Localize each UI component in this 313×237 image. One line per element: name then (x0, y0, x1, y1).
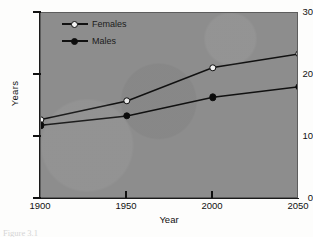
x-tick-label: 2050 (276, 201, 313, 211)
y-axis-title: Years (9, 68, 20, 120)
series-line-females (41, 54, 298, 120)
y-tick (33, 73, 41, 74)
y-axis-line (39, 11, 40, 199)
x-tick (211, 191, 212, 198)
y-tick (33, 197, 41, 198)
series-line-males (41, 87, 298, 125)
y-tick-label: 10 (279, 131, 313, 141)
x-tick-label: 2000 (190, 201, 234, 211)
y-tick-label: 20 (279, 69, 313, 79)
x-tick-label: 1950 (104, 201, 148, 211)
series-lines (41, 13, 298, 198)
figure-container: Females Males 0102030 1900195020002050 Y… (0, 0, 313, 237)
plot-area: Females Males (40, 12, 298, 198)
x-tick (125, 191, 126, 198)
x-axis-title: Year (40, 214, 298, 225)
y-tick-label: 30 (279, 7, 313, 17)
x-axis-line (39, 198, 299, 199)
data-point-females (295, 50, 298, 57)
figure-caption: Figure 3.1 (3, 228, 38, 237)
data-point-males (295, 83, 298, 90)
y-tick (33, 135, 41, 136)
y-tick (33, 11, 41, 12)
x-tick-label: 1900 (18, 201, 62, 211)
